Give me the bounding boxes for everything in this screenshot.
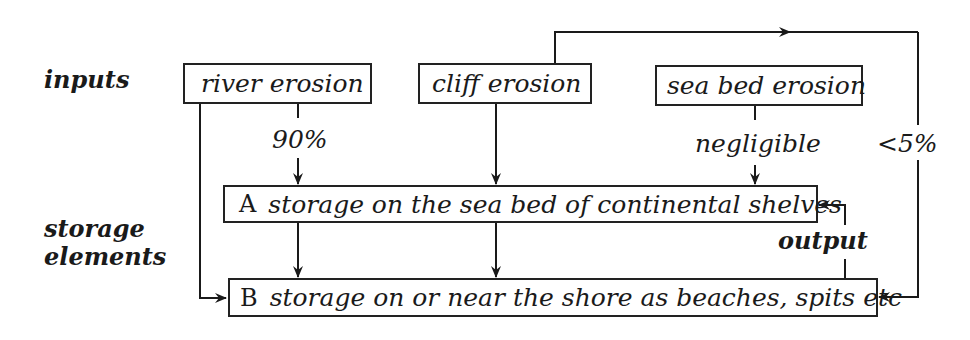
- flow-label-less-than-5-percent: <5%: [877, 131, 938, 156]
- storage-letter: A: [239, 190, 256, 218]
- flow-label-90-percent: 90%: [272, 127, 328, 152]
- row-label-elements: elements: [44, 245, 166, 269]
- storage-label: storage on or near the shore as beaches,…: [270, 283, 902, 312]
- storage-box-b: B storage on or near the shore as beache…: [228, 278, 878, 317]
- arrow-cliff-to-b: [879, 160, 918, 297]
- input-label: river erosion: [201, 69, 364, 98]
- input-box-cliff-erosion: cliff erosion: [418, 63, 592, 104]
- line-cliff-loop-top: [555, 32, 918, 63]
- row-label-inputs: inputs: [44, 68, 129, 92]
- row-label-storage: storage: [44, 217, 145, 241]
- input-box-sea-bed-erosion: sea bed erosion: [655, 65, 863, 106]
- storage-letter: B: [240, 284, 258, 312]
- storage-box-a: A storage on the sea bed of continental …: [223, 185, 818, 223]
- flow-label-negligible: negligible: [695, 131, 821, 156]
- flow-label-output: output: [778, 229, 868, 253]
- input-box-river-erosion: river erosion: [183, 63, 372, 104]
- storage-label: storage on the sea bed of continental sh…: [268, 190, 842, 219]
- input-label: cliff erosion: [432, 69, 581, 98]
- input-label: sea bed erosion: [667, 71, 866, 100]
